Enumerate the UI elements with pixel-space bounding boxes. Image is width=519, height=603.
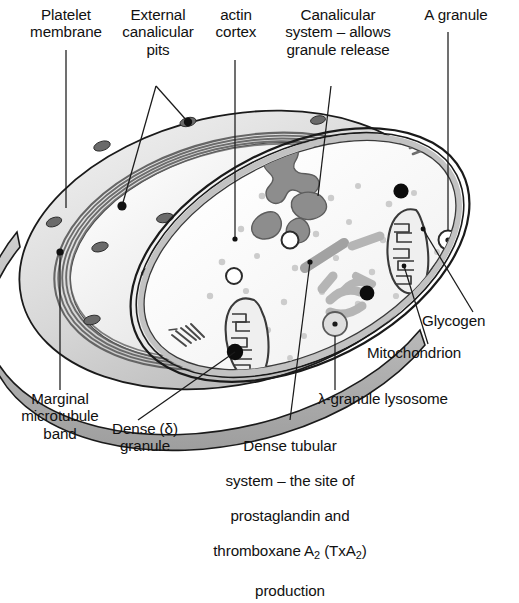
label-mitochondrion: Mitochondrion xyxy=(367,344,513,361)
dts-line-1: Dense tubular xyxy=(182,437,398,454)
label-actin-cortex: actin cortex xyxy=(202,6,270,41)
dts-line-5: production xyxy=(182,582,398,599)
label-lambda-granule-lysosome: λ-granule lysosome xyxy=(318,390,514,407)
label-dense-granule: Dense (δ) granule xyxy=(98,420,192,455)
label-marginal-microtubule-band: Marginal microtubule band xyxy=(8,390,112,442)
label-canalicular-system: Canalicular system – allows granule rele… xyxy=(270,6,406,58)
dts-line-2: system – the site of xyxy=(182,472,398,489)
dts-line-4: thromboxane A2 (TxA2) xyxy=(182,542,398,564)
label-a-granule: A granule xyxy=(404,6,508,23)
dts-txa-open: (TxA xyxy=(320,542,356,559)
lambda-granule-lysosome xyxy=(323,312,347,336)
dts-line-3: prostaglandin and xyxy=(182,507,398,524)
dts-thromboxane: thromboxane A xyxy=(213,542,314,559)
label-external-canalicular-pits: External canalicular pits xyxy=(104,6,212,58)
label-dense-tubular-system: Dense tubular system – the site of prost… xyxy=(182,420,398,603)
label-glycogen: Glycogen xyxy=(422,312,512,329)
dts-txa-close: ) xyxy=(362,542,367,559)
